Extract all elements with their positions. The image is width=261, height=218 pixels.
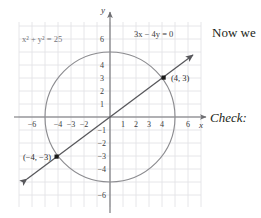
point-marker [55, 155, 59, 159]
y-tick-label: 1 [100, 100, 104, 109]
y-tick-label: −2 [97, 139, 106, 148]
x-tick-labels: −6 −4 −3 −2 1 2 3 4 6 [28, 120, 190, 129]
point-label-negative: (−4, −3) [23, 152, 51, 162]
point-marker [162, 76, 166, 80]
y-tick-label: −3 [97, 152, 106, 161]
y-tick-label: −1 [97, 126, 106, 135]
prose-now-we: Now we [212, 25, 256, 41]
circle-equation-label: x² + y² = 25 [22, 34, 62, 44]
y-tick-label: −4 [97, 165, 106, 174]
x-tick-label: 3 [147, 120, 151, 129]
x-tick-label: 6 [186, 120, 190, 129]
y-tick-label: 4 [100, 61, 104, 70]
x-tick-label: 1 [121, 120, 125, 129]
x-tick-label: 2 [134, 120, 138, 129]
prose-check-label: Check: [210, 110, 247, 126]
y-tick-label: 3 [100, 74, 104, 83]
point-label-positive: (4, 3) [171, 73, 190, 83]
x-axis-name: x [198, 120, 203, 130]
y-tick-label: −6 [97, 191, 106, 200]
x-tick-label: −6 [28, 120, 37, 129]
x-tick-label: 4 [160, 120, 164, 129]
x-tick-label: −2 [80, 120, 89, 129]
y-axis-name: y [100, 5, 105, 15]
y-tick-label: 2 [100, 87, 104, 96]
x-tick-label: −4 [54, 120, 63, 129]
line-equation-label: 3x − 4y = 0 [134, 29, 173, 39]
y-tick-label: 6 [100, 35, 104, 44]
x-tick-label: −3 [67, 120, 76, 129]
